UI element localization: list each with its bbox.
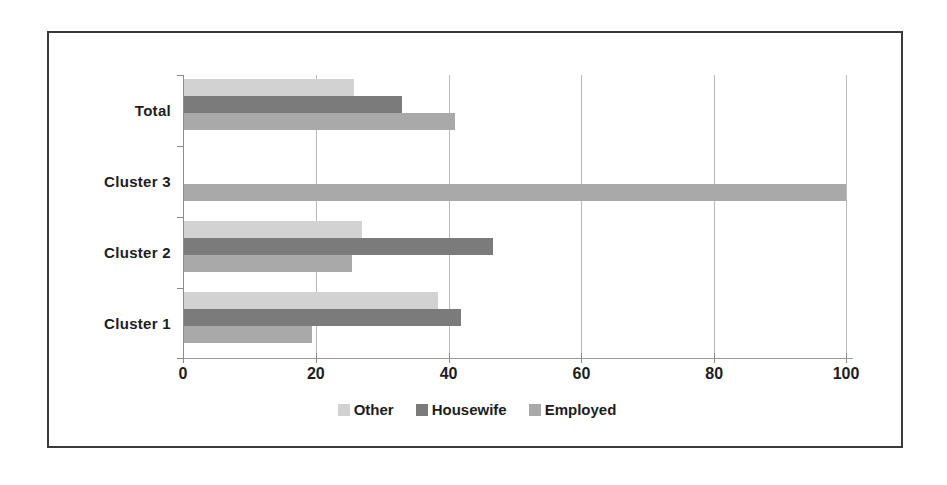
chart-legend: Other Housewife Employed <box>49 401 905 418</box>
bar-group-cluster3 <box>183 146 847 216</box>
x-axis-label-80: 80 <box>705 365 723 383</box>
legend-label-employed: Employed <box>545 401 617 418</box>
chart-frame: Total Cluster 3 Cluster 2 Cluster 1 0 20… <box>47 31 903 448</box>
x-axis-tick-100 <box>846 353 847 363</box>
x-axis-label-20: 20 <box>307 365 325 383</box>
x-axis-tick-80 <box>714 353 715 363</box>
bar-cluster3-employed[interactable] <box>183 184 846 201</box>
x-axis-label-40: 40 <box>440 365 458 383</box>
legend-swatch-other-icon <box>338 404 350 416</box>
legend-swatch-housewife-icon <box>416 404 428 416</box>
y-axis-tick-cluster3 <box>177 146 184 147</box>
y-axis-label-total: Total <box>135 102 171 119</box>
legend-item-employed[interactable]: Employed <box>529 401 617 418</box>
bar-group-cluster2 <box>183 217 847 287</box>
legend-item-other[interactable]: Other <box>338 401 394 418</box>
x-axis-label-0: 0 <box>179 365 188 383</box>
x-axis-tick-0 <box>183 353 184 363</box>
y-axis-tick-total <box>177 75 184 76</box>
bar-cluster1-employed[interactable] <box>183 326 312 343</box>
bar-total-other[interactable] <box>183 79 354 96</box>
bar-total-housewife[interactable] <box>183 96 402 113</box>
bar-cluster2-other[interactable] <box>183 221 362 238</box>
bar-cluster2-housewife[interactable] <box>183 238 493 255</box>
x-axis-line <box>177 358 853 359</box>
plot-area <box>183 75 847 358</box>
x-axis-labels: 0 20 40 60 80 100 <box>49 365 905 391</box>
legend-label-housewife: Housewife <box>432 401 507 418</box>
legend-label-other: Other <box>354 401 394 418</box>
x-axis-label-60: 60 <box>572 365 590 383</box>
bar-group-cluster1 <box>183 288 847 358</box>
bar-group-total <box>183 75 847 145</box>
y-axis-labels: Total Cluster 3 Cluster 2 Cluster 1 <box>49 75 171 358</box>
bar-total-employed[interactable] <box>183 113 455 130</box>
x-axis-tick-40 <box>449 353 450 363</box>
y-axis-tick-cluster2 <box>177 217 184 218</box>
legend-swatch-employed-icon <box>529 404 541 416</box>
x-axis-tick-60 <box>581 353 582 363</box>
bar-cluster1-other[interactable] <box>183 292 438 309</box>
x-axis-tick-20 <box>316 353 317 363</box>
bar-cluster1-housewife[interactable] <box>183 309 461 326</box>
legend-item-housewife[interactable]: Housewife <box>416 401 507 418</box>
x-axis-label-100: 100 <box>833 365 860 383</box>
y-axis-label-cluster1: Cluster 1 <box>104 315 171 332</box>
y-axis-label-cluster3: Cluster 3 <box>104 173 171 190</box>
bar-cluster2-employed[interactable] <box>183 255 352 272</box>
y-axis-label-cluster2: Cluster 2 <box>104 244 171 261</box>
y-axis-tick-cluster1 <box>177 288 184 289</box>
